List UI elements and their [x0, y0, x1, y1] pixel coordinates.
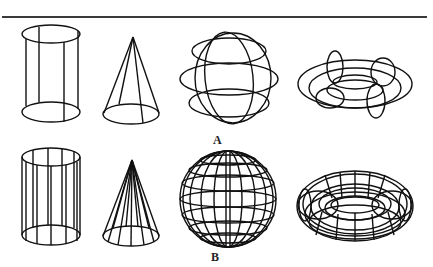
row-label-b: B	[211, 250, 219, 265]
cylinder-coarse	[22, 25, 80, 122]
row-label-a: A	[213, 133, 222, 148]
sphere-coarse	[180, 30, 278, 127]
torus-coarse	[298, 51, 412, 118]
cone-coarse	[103, 37, 159, 124]
cylinder-fine	[22, 148, 80, 245]
cone-fine	[103, 160, 159, 246]
sphere-fine	[180, 151, 276, 247]
torus-fine	[297, 171, 413, 241]
